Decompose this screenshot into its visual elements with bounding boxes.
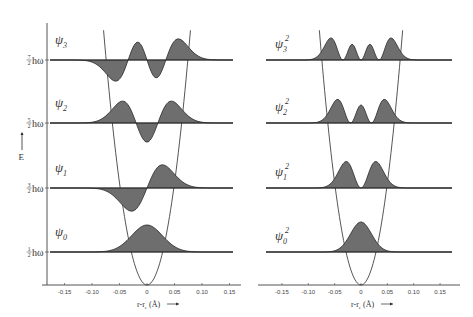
x-tick-label: -0.05: [113, 289, 127, 295]
energy-axis-label: E: [19, 152, 25, 162]
arrow-up-icon: [21, 132, 24, 135]
x-tick-label: 0.10: [408, 289, 420, 295]
x-tick-label: -0.05: [328, 289, 342, 295]
level-3: ψ3: [50, 32, 233, 81]
psi-label: ψ12: [275, 162, 289, 182]
psi-label: ψ32: [275, 34, 289, 54]
x-tick-label: 0: [359, 289, 363, 295]
x-axis-label: r-re (Å): [137, 300, 161, 310]
x-tick-label: -0.10: [301, 289, 315, 295]
psi-label: ψ02: [275, 226, 289, 246]
x-tick-label: 0.15: [224, 289, 236, 295]
level-2: ψ22: [266, 97, 452, 123]
level-1: ψ12: [266, 162, 452, 188]
x-tick-label: 0.05: [169, 289, 181, 295]
fraction-denominator: 2: [28, 60, 31, 66]
h-omega-label: hω: [32, 55, 44, 66]
psi-label: ψ3: [55, 32, 67, 50]
h-omega-label: hω: [32, 118, 44, 129]
x-tick-label: 0: [145, 289, 149, 295]
arrow-head-icon: [390, 303, 393, 306]
level-1: ψ1: [50, 160, 233, 211]
level-2: ψ2: [50, 95, 233, 142]
wavefunction-curve: [266, 38, 452, 60]
level-0: ψ02: [266, 222, 452, 252]
x-axis-label: r-re (Å): [351, 300, 375, 310]
x-tick-label: -0.15: [275, 289, 289, 295]
h-omega-label: hω: [32, 247, 44, 258]
fraction-denominator: 2: [28, 188, 31, 194]
probability-panel: -0.15-0.10-0.0500.050.100.15r-re (Å)ψ02ψ…: [258, 30, 460, 310]
fraction-denominator: 2: [28, 252, 31, 258]
wavefunction-curve: [50, 225, 233, 252]
fraction-denominator: 2: [28, 123, 31, 129]
level-0: ψ0: [50, 224, 233, 252]
wavefunction-curve: [50, 101, 233, 142]
psi-label: ψ1: [55, 160, 67, 178]
wavefunction-panel: -0.15-0.10-0.0500.050.100.15r-re (Å)ψ0ψ1…: [42, 30, 241, 310]
x-tick-label: 0.15: [434, 289, 446, 295]
x-tick-label: -0.15: [58, 289, 72, 295]
wavefunction-curve: [266, 162, 452, 188]
wavefunction-curve: [266, 99, 452, 123]
x-tick-label: 0.05: [382, 289, 394, 295]
h-omega-label: hω: [32, 183, 44, 194]
arrow-head-icon: [176, 303, 179, 306]
psi-label: ψ0: [55, 224, 67, 242]
x-tick-label: -0.10: [85, 289, 99, 295]
harmonic-oscillator-figure: 12hω32hω52hω72hωE-0.15-0.10-0.0500.050.1…: [0, 0, 473, 317]
psi-label: ψ2: [55, 95, 67, 113]
wavefunction-curve: [266, 222, 452, 252]
x-tick-label: 0.10: [196, 289, 208, 295]
level-3: ψ32: [266, 34, 452, 60]
psi-label: ψ22: [275, 97, 289, 117]
